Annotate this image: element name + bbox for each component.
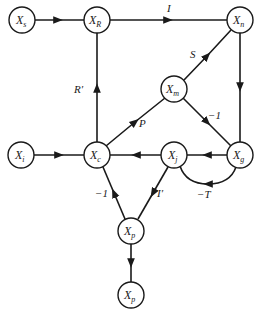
label-minus-one-pc: −1 — [95, 187, 108, 199]
label-minus-one-mg: −1 — [208, 109, 221, 121]
node-xj: Xj — [161, 142, 187, 168]
signal-flow-diagram: I S R′ P −1 −T −1 I′ Xs XR Xn Xm Xi — [0, 0, 255, 315]
edge-xj-xp — [138, 167, 168, 219]
label-s: S — [190, 48, 196, 60]
node-xg: Xg — [227, 142, 253, 168]
label-p: P — [138, 117, 146, 129]
label-i: I — [166, 2, 172, 14]
label-minus-t: −T — [197, 188, 211, 200]
node-xr: XR — [84, 7, 110, 33]
edge-xm-xg — [183, 98, 231, 146]
node-xi: Xi — [8, 142, 34, 168]
node-xp: Xp — [118, 218, 144, 244]
edge-xc-xm — [106, 98, 165, 146]
label-r-prime: R′ — [73, 83, 84, 95]
node-xs: Xs — [9, 7, 35, 33]
node-xn: Xn — [227, 7, 253, 33]
label-i-prime: I′ — [156, 187, 164, 199]
node-xp-output: Xp — [118, 282, 144, 308]
node-xm: Xm — [161, 76, 187, 102]
node-xc: Xc — [84, 142, 110, 168]
edge-xg-xj-curve — [180, 166, 236, 184]
